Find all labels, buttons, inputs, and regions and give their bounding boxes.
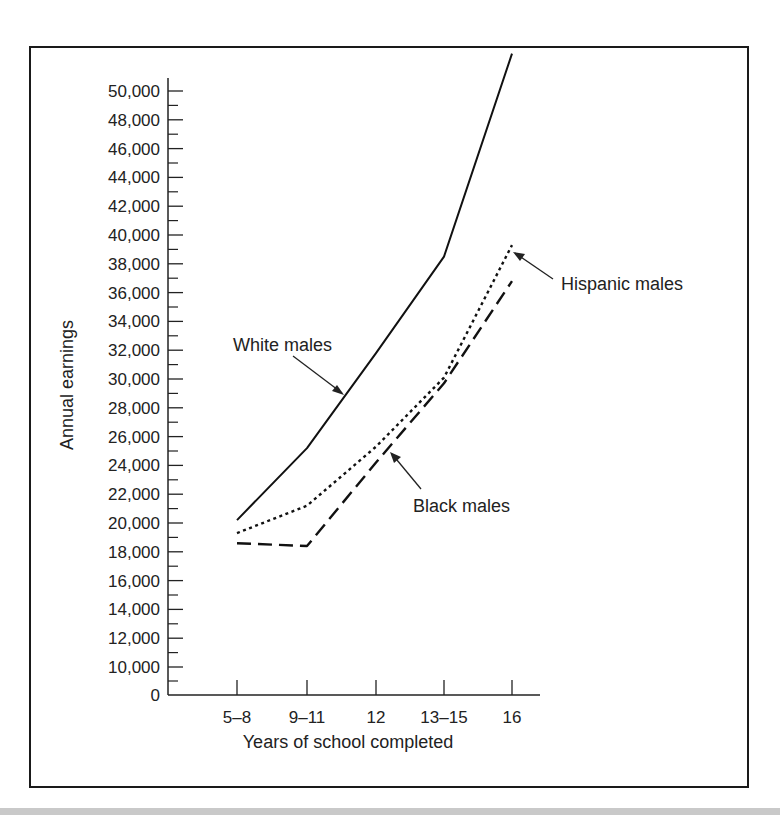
x-tick-label: 5–8 (223, 708, 251, 727)
y-tick-label: 26,000 (108, 428, 160, 447)
x-axis: 5–89–111213–1516 (168, 680, 540, 727)
y-tick-label: 20,000 (108, 514, 160, 533)
y-tick-label: 28,000 (108, 399, 160, 418)
y-axis: 010,00012,00014,00016,00018,00020,00022,… (108, 78, 183, 705)
y-tick-label: 18,000 (108, 543, 160, 562)
y-tick-label: 14,000 (108, 600, 160, 619)
y-tick-label: 40,000 (108, 226, 160, 245)
y-tick-label: 16,000 (108, 572, 160, 591)
y-tick-label: 22,000 (108, 485, 160, 504)
y-tick-label: 30,000 (108, 370, 160, 389)
label-hispanic-males: Hispanic males (561, 274, 683, 294)
y-tick-label: 24,000 (108, 456, 160, 475)
annotation-white-males: White males (233, 335, 344, 395)
y-tick-label: 48,000 (108, 111, 160, 130)
y-tick-label: 36,000 (108, 284, 160, 303)
y-tick-label: 12,000 (108, 629, 160, 648)
y-tick-label: 46,000 (108, 140, 160, 159)
y-tick-label: 38,000 (108, 255, 160, 274)
x-tick-label: 12 (367, 708, 386, 727)
arrowhead-icon (513, 252, 525, 261)
series-white-males (237, 54, 512, 520)
series-group (237, 54, 512, 546)
y-axis-title: Annual earnings (57, 320, 77, 450)
y-tick-label: 32,000 (108, 341, 160, 360)
y-tick-label: 44,000 (108, 168, 160, 187)
line-chart: 010,00012,00014,00016,00018,00020,00022,… (0, 0, 780, 815)
y-tick-label: 0 (151, 686, 160, 705)
arrow-white-males (293, 356, 342, 393)
label-black-males: Black males (413, 496, 510, 516)
arrowhead-icon (390, 452, 401, 463)
x-tick-label: 16 (503, 708, 522, 727)
x-tick-label: 13–15 (420, 708, 467, 727)
x-axis-title: Years of school completed (243, 732, 453, 752)
y-tick-label: 42,000 (108, 197, 160, 216)
series-hispanic-males (237, 245, 512, 533)
y-tick-label: 50,000 (108, 82, 160, 101)
y-tick-label: 10,000 (108, 658, 160, 677)
annotation-black-males: Black males (390, 452, 510, 516)
y-tick-label: 34,000 (108, 312, 160, 331)
label-white-males: White males (233, 335, 332, 355)
x-tick-label: 9–11 (289, 708, 326, 727)
annotation-hispanic-males: Hispanic males (513, 252, 683, 294)
